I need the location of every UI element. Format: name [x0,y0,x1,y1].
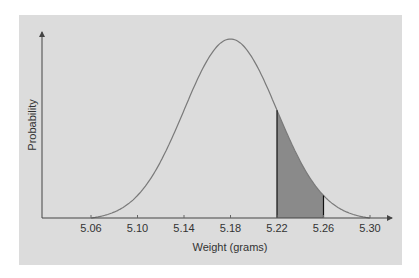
x-tick-label: 5.22 [266,222,287,234]
x-axis-label: Weight (grams) [193,241,268,253]
x-tick-label: 5.18 [220,222,241,234]
normal-curve [91,39,370,218]
x-tick-label: 5.10 [127,222,148,234]
x-tick-label: 5.30 [359,222,380,234]
x-tick-label: 5.14 [173,222,194,234]
normal-distribution-chart: 5.065.105.145.185.225.265.30 Weight (gra… [0,0,419,278]
x-tick-label: 5.26 [313,222,334,234]
y-axis-label: Probability [26,99,38,151]
x-tick-label: 5.06 [80,222,101,234]
